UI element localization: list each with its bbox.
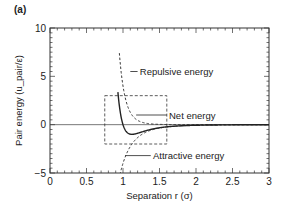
axis-labels: 00.511.522.53−50510Separation r (σ)Pair … [13,23,272,202]
inset-box [105,96,167,144]
x-axis-title: Separation r (σ) [126,190,193,201]
x-tick-label: 2.5 [226,176,240,187]
y-tick-label: −5 [35,168,47,179]
pair-energy-chart: Repulsive energyNet energyAttractive ene… [0,0,286,211]
x-tick-label: 3 [266,176,272,187]
x-tick-label: 2 [193,176,199,187]
x-tick-label: 1 [120,176,126,187]
x-tick-label: 1.5 [153,176,167,187]
net-energy-label: Net energy [169,110,216,121]
y-axis-title: Pair energy (u_pair/ε) [13,55,24,146]
y-tick-label: 5 [40,71,46,82]
attractive-energy-label: Attractive energy [153,150,225,161]
repulsive-energy-label: Repulsive energy [140,66,214,77]
x-tick-label: 0.5 [80,176,94,187]
y-tick-label: 10 [35,23,47,34]
inset-box-rect [105,96,167,144]
x-tick-label: 0 [47,176,53,187]
annotations: Repulsive energyNet energyAttractive ene… [125,66,224,161]
y-tick-label: 0 [40,119,46,130]
